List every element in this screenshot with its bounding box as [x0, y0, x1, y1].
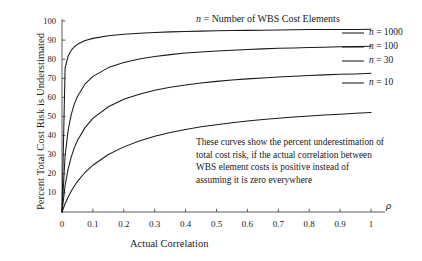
chart-container: Percent Total Cost Risk is Understimated… [0, 0, 422, 261]
legend-label: n = 1000 [369, 27, 403, 37]
legend-label: n = 100 [369, 41, 398, 51]
y-tick-label: 10 [36, 187, 56, 197]
legend-title: n = Number of WBS Cost Elements [196, 13, 340, 24]
x-tick-label: 0.3 [142, 219, 168, 229]
y-tick-label: 80 [36, 54, 56, 64]
x-tick-label: 0.8 [296, 219, 322, 229]
x-axis-title: Actual Correlation [130, 238, 208, 249]
legend-label-value: = 1000 [374, 27, 403, 37]
annotation-line: These curves show the percent underestim… [196, 136, 411, 149]
annotation-line: assuming it is zero everywhere [196, 174, 411, 187]
legend-label: n = 10 [369, 77, 393, 87]
legend-label: n = 30 [369, 55, 393, 65]
curve-100 [62, 46, 371, 212]
y-tick-label: 60 [36, 92, 56, 102]
x-tick-label: 0.2 [111, 219, 137, 229]
y-tick-label: 40 [36, 130, 56, 140]
x-tick-label: 1 [358, 219, 384, 229]
annotation-text: These curves show the percent underestim… [196, 136, 411, 186]
legend-label-value: = 100 [374, 41, 398, 51]
x-tick-label: 0.7 [265, 219, 291, 229]
legend-line-swatches [342, 33, 364, 83]
annotation-line: WBS element costs is positive instead of [196, 161, 411, 174]
x-tick-label: 0.9 [327, 219, 353, 229]
annotation-line: total cost risk, if the actual correlati… [196, 149, 411, 162]
rho-symbol: ρ [386, 199, 391, 211]
y-tick-label: 70 [36, 73, 56, 83]
y-tick-label: 50 [36, 111, 56, 121]
x-tick-label: 0.1 [80, 219, 106, 229]
x-tick-label: 0.6 [234, 219, 260, 229]
y-tick-label: 30 [36, 149, 56, 159]
y-tick-label: 20 [36, 168, 56, 178]
y-tick-label: 100 [36, 16, 56, 26]
legend-label-value: = 10 [374, 77, 394, 87]
x-tick-label: 0.4 [173, 219, 199, 229]
legend-label-value: = 30 [374, 55, 394, 65]
y-tick-label: 90 [36, 35, 56, 45]
x-tick-label: 0 [49, 219, 75, 229]
legend-title-text: = Number of WBS Cost Elements [201, 13, 340, 24]
x-tick-label: 0.5 [204, 219, 230, 229]
